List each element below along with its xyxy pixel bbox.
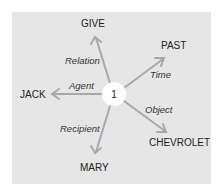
- node-jack: JACK: [20, 89, 46, 100]
- node-chevrolet: CHEVROLET: [149, 137, 210, 148]
- edge-label-recipient: Recipient: [60, 123, 100, 134]
- edge-label-agent: Agent: [69, 80, 94, 91]
- center-node: 1: [102, 82, 126, 106]
- node-mary: MARY: [80, 162, 109, 173]
- edge-label-relation: Relation: [65, 55, 100, 66]
- edge-label-time: Time: [150, 69, 171, 80]
- node-give: GIVE: [81, 18, 105, 29]
- edge-label-object: Object: [145, 104, 172, 115]
- center-label: 1: [111, 89, 117, 100]
- node-past: PAST: [161, 40, 186, 51]
